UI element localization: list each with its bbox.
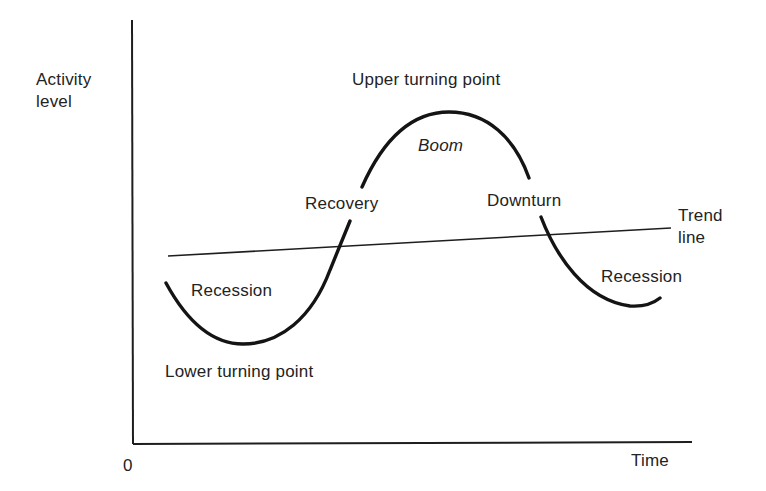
origin-label: 0 xyxy=(123,456,133,476)
y-axis-label-activity: Activity xyxy=(36,70,91,90)
y-axis-label-level: level xyxy=(36,92,72,112)
upper-turning-point-label: Upper turning point xyxy=(352,70,500,90)
trend-line-label-trend: Trend xyxy=(678,206,723,226)
business-cycle-diagram: Activity level 0 Time Upper turning poin… xyxy=(0,0,766,491)
x-axis-label-time: Time xyxy=(631,451,669,471)
recession-label-right: Recession xyxy=(601,267,682,287)
downturn-label: Downturn xyxy=(487,191,561,211)
recovery-label: Recovery xyxy=(305,194,378,214)
boom-label: Boom xyxy=(418,136,463,156)
trend-line-label-line: line xyxy=(678,228,705,248)
x-axis xyxy=(133,442,692,444)
recession-label-left: Recession xyxy=(191,281,272,301)
lower-turning-point-label: Lower turning point xyxy=(165,362,313,382)
y-axis xyxy=(132,20,133,444)
trend-line xyxy=(168,228,671,256)
